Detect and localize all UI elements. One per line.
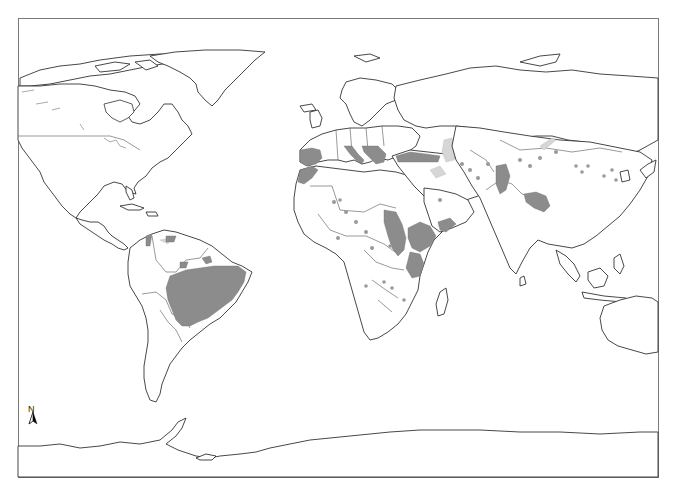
south-america — [128, 230, 252, 402]
world-map — [0, 0, 675, 495]
asia — [392, 126, 656, 302]
north-arrow-label: N — [28, 404, 35, 414]
region-iberia — [300, 148, 322, 166]
antarctica — [18, 418, 658, 477]
north-america — [18, 50, 265, 250]
region-brazil — [166, 266, 246, 326]
oceania — [600, 296, 658, 354]
